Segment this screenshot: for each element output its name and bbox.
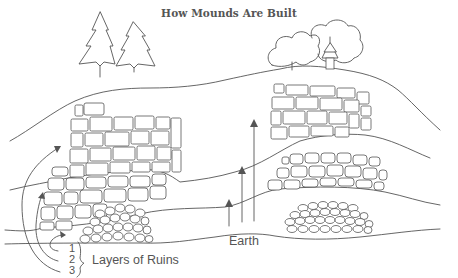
deciduous-trees-icon bbox=[268, 20, 363, 70]
layer-2-wall-right bbox=[268, 153, 387, 190]
layer-number-3: 3 bbox=[69, 264, 75, 276]
shrine-icon bbox=[322, 37, 338, 69]
layer-1-rubble-right bbox=[285, 202, 373, 234]
layer-3-wall-left bbox=[70, 103, 181, 177]
pine-trees-icon bbox=[79, 12, 155, 77]
mound-cross-section: 1 2 3 Layers of Ruins Earth bbox=[0, 0, 458, 278]
earth-arrows bbox=[225, 119, 258, 226]
layers-of-ruins-label: Layers of Ruins bbox=[92, 253, 179, 267]
earth-label: Earth bbox=[229, 234, 259, 248]
layer-3-wall-right bbox=[271, 84, 371, 139]
